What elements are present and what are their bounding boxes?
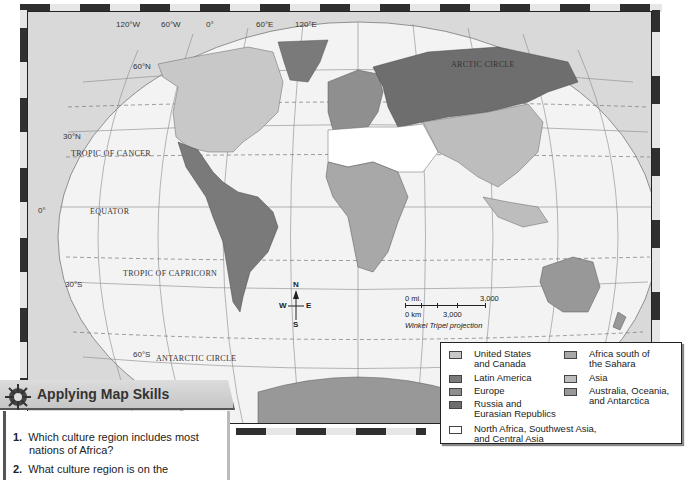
compass-rose-icon — [3, 382, 33, 412]
legend-swatch — [449, 375, 462, 383]
legend-swatch — [564, 388, 577, 396]
latitude-label-60n: 60°N — [133, 62, 151, 71]
legend-swatch — [564, 351, 577, 359]
skills-questions-panel: 1.Which culture region includes most nat… — [3, 411, 230, 480]
tropic-of-capricorn-label: TROPIC OF CAPRICORN — [123, 269, 217, 278]
compass-east: E — [306, 301, 311, 310]
longitude-label-120e: 120°E — [295, 20, 317, 29]
legend-item-russia: Russia andEurasian Republics — [449, 399, 556, 419]
legend-swatch — [449, 388, 462, 396]
antarctic-circle-label: ANTARCTIC CIRCLE — [156, 354, 236, 363]
compass-rose: N W E S — [278, 282, 314, 332]
legend-item-asia: Asia — [564, 373, 607, 383]
longitude-label-60w: 60°W — [161, 20, 181, 29]
longitude-label-0: 0° — [206, 20, 214, 29]
skills-title: Applying Map Skills — [37, 386, 169, 402]
scale-km-end: 3,000 — [443, 310, 462, 319]
scale-km-start: 0 km — [405, 310, 421, 319]
legend-item-africa-south-sahara: Africa south ofthe Sahara — [564, 349, 650, 369]
question-2: 2.What culture region is on the — [13, 463, 168, 476]
map-frame-left-border — [20, 10, 27, 390]
legend-item-europe: Europe — [449, 386, 505, 396]
scale-mi-end: 3,000 — [480, 294, 499, 303]
longitude-label-60e: 60°E — [256, 20, 273, 29]
legend-swatch — [449, 401, 462, 409]
legend-item-latin-america: Latin America — [449, 373, 532, 383]
legend-item-north-africa-sw-asia: North Africa, Southwest Asia,and Central… — [449, 424, 597, 444]
legend-item-australia-oceania: Australia, Oceania,and Antarctica — [564, 386, 669, 406]
longitude-label-120w: 120°W — [116, 20, 140, 29]
latitude-label-30s: 30°S — [65, 280, 82, 289]
legend-swatch — [449, 426, 462, 434]
legend-swatch — [564, 375, 577, 383]
map-frame-bottom-border — [236, 428, 426, 435]
projection-label: Winkel Tripel projection — [405, 321, 482, 330]
map-scale: 0 mi. 3,000 0 km 3,000 Winkel Tripel pro… — [403, 294, 533, 334]
legend-swatch — [449, 351, 462, 359]
legend-item-us-canada: United Statesand Canada — [449, 349, 531, 369]
map-frame-right-border — [652, 10, 660, 365]
latitude-label-30n: 30°N — [63, 132, 81, 141]
map-legend: United Statesand Canada Latin America Eu… — [440, 342, 682, 444]
latitude-label-60s: 60°S — [133, 350, 150, 359]
question-1: 1.Which culture region includes most nat… — [13, 431, 199, 457]
compass-west: W — [279, 301, 287, 310]
tropic-of-cancer-label: TROPIC OF CANCER — [71, 149, 151, 158]
compass-north: N — [293, 280, 299, 289]
scale-bar — [405, 305, 486, 309]
latitude-label-0: 0° — [38, 206, 46, 215]
equator-label: EQUATOR — [90, 207, 129, 216]
arctic-circle-label: ARCTIC CIRCLE — [451, 60, 515, 69]
compass-south: S — [293, 320, 298, 329]
scale-mi-start: 0 mi. — [405, 294, 421, 303]
